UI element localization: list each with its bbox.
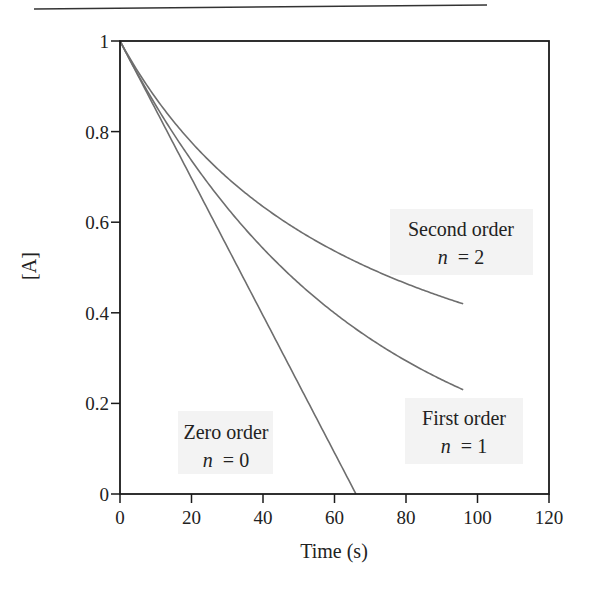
y-tick-label: 1: [100, 31, 110, 52]
x-tick-label: 100: [463, 507, 492, 528]
first-order-label: First order: [422, 407, 506, 429]
x-tick-label: 0: [115, 507, 125, 528]
second-order-n: n= 2: [438, 246, 484, 268]
x-axis-title: Time (s): [300, 540, 368, 563]
x-tick-label: 60: [325, 507, 344, 528]
second-order-eq: = 2: [458, 246, 484, 268]
x-tick-label: 120: [535, 507, 564, 528]
kinetics-chart: 02040608010012000.20.40.60.81 Zero order…: [0, 0, 591, 590]
zero-order-eq: = 0: [223, 449, 249, 471]
x-tick-label: 80: [397, 507, 416, 528]
y-tick-label: 0: [100, 484, 110, 505]
y-tick-label: 0.2: [85, 393, 109, 414]
first-order-eq: = 1: [461, 435, 487, 457]
y-tick-label: 0.4: [85, 303, 109, 324]
x-tick-label: 40: [254, 507, 273, 528]
y-tick-label: 0.8: [85, 122, 109, 143]
n-symbol: n: [441, 435, 451, 457]
y-tick-label: 0.6: [85, 212, 109, 233]
top-rule: [34, 5, 487, 9]
second-order-label: Second order: [408, 218, 514, 240]
n-symbol: n: [203, 449, 213, 471]
x-tick-label: 20: [182, 507, 201, 528]
zero-order-n: n= 0: [203, 449, 249, 471]
first-order-n: n= 1: [441, 435, 487, 457]
zero-order-label: Zero order: [184, 421, 269, 443]
n-symbol: n: [438, 246, 448, 268]
y-axis-title: [A]: [18, 252, 40, 280]
